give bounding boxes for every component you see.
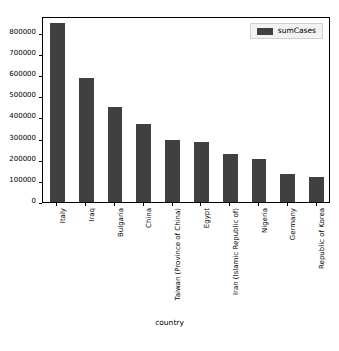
- x-axis-tick-label: Bulgaria: [118, 208, 125, 237]
- bar: [309, 177, 324, 202]
- x-axis-tick-mark: [287, 203, 288, 206]
- bar: [165, 140, 180, 202]
- y-axis-tick-label: 700000: [9, 50, 36, 57]
- bar: [50, 23, 65, 202]
- y-axis-tick-label: 600000: [9, 71, 36, 78]
- x-axis-tick-mark: [200, 203, 201, 206]
- x-axis-tick-label: Italy: [60, 208, 67, 223]
- x-axis-tick-mark: [143, 203, 144, 206]
- bar: [223, 154, 238, 202]
- x-axis-tick-label: Germany: [290, 208, 297, 240]
- bar: [79, 78, 94, 202]
- y-axis-tick-label: 300000: [9, 135, 36, 142]
- bar: [136, 124, 151, 202]
- legend-label-sumCases: sumCases: [278, 27, 316, 35]
- plot-area: sumCases: [42, 17, 330, 203]
- x-axis-tick-mark: [172, 203, 173, 206]
- bar-series-sumCases: [43, 18, 329, 202]
- bar-chart-figure: 0100000200000300000400000500000600000700…: [0, 0, 339, 351]
- y-axis-tick-label: 200000: [9, 156, 36, 163]
- x-axis-tick-mark: [85, 203, 86, 206]
- x-axis-tick-mark: [114, 203, 115, 206]
- x-axis: ItalyIraqBulgariaChinaTaiwan (Province o…: [42, 203, 330, 313]
- y-axis-tick-label: 100000: [9, 177, 36, 184]
- x-axis-tick-label: China: [146, 208, 153, 228]
- chart-legend: sumCases: [250, 23, 323, 39]
- x-axis-tick-label: Iraq: [89, 208, 96, 222]
- x-axis-tick-label: Egypt: [204, 208, 211, 228]
- bar: [252, 159, 267, 202]
- y-axis: 0100000200000300000400000500000600000700…: [0, 17, 42, 203]
- x-axis-tick-mark: [229, 203, 230, 206]
- x-axis-tick-label: Taiwan (Province of China): [175, 208, 182, 300]
- x-axis-tick-mark: [56, 203, 57, 206]
- legend-swatch-sumCases: [257, 28, 273, 35]
- x-axis-tick-mark: [316, 203, 317, 206]
- x-axis-tick-label: Republic of Korea: [319, 208, 326, 269]
- x-axis-tick-label: Nigeria: [262, 208, 269, 233]
- y-axis-tick-label: 400000: [9, 113, 36, 120]
- y-axis-tick-label: 500000: [9, 92, 36, 99]
- y-axis-tick-label: 0: [32, 198, 36, 205]
- x-axis-tick-mark: [258, 203, 259, 206]
- bar: [280, 174, 295, 202]
- bar: [108, 107, 123, 202]
- bar: [194, 142, 209, 202]
- x-axis-tick-label: Iran (Islamic Republic of): [233, 208, 240, 295]
- x-axis-title: country: [0, 318, 339, 327]
- y-axis-tick-label: 800000: [9, 29, 36, 36]
